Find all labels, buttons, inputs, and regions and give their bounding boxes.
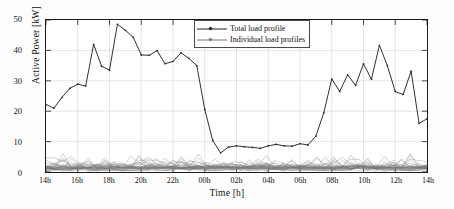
x-tick-label: 16h: [60, 176, 94, 185]
legend-line-marker-individual: [197, 35, 227, 45]
x-tick-label: 14h: [411, 176, 445, 185]
x-axis-label: Time [h]: [0, 188, 454, 198]
legend-line-marker-total: [197, 24, 227, 34]
x-tick-label: 08h: [315, 176, 349, 185]
x-tick-label: 10h: [347, 176, 381, 185]
x-tick-label: 14h: [28, 176, 62, 185]
legend-label-total: Total load profile: [230, 24, 285, 34]
x-tick-label: 22h: [156, 176, 190, 185]
x-tick-label: 06h: [283, 176, 317, 185]
y-tick-label: 10: [0, 137, 22, 147]
y-tick-label: 40: [0, 45, 22, 55]
x-tick-label: 04h: [251, 176, 285, 185]
y-tick-label: 20: [0, 106, 22, 116]
chart-legend: Total load profile Individual load profi…: [194, 20, 310, 48]
x-tick-label: 02h: [220, 176, 254, 185]
x-tick-label: 00h: [188, 176, 222, 185]
y-tick-label: 0: [0, 168, 22, 178]
y-tick-label: 50: [0, 14, 22, 24]
figure: Active Power [kW] 01020304050 14h16h18h2…: [0, 0, 454, 209]
y-tick-label: 30: [0, 76, 22, 86]
x-tick-label: 20h: [124, 176, 158, 185]
legend-label-individual: Individual load profiles: [230, 35, 305, 45]
legend-item-total: Total load profile: [197, 23, 305, 34]
legend-item-individual: Individual load profiles: [197, 34, 305, 45]
x-tick-label: 18h: [92, 176, 126, 185]
x-tick-label: 12h: [379, 176, 413, 185]
y-axis-label: Active Power [kW]: [31, 0, 41, 105]
